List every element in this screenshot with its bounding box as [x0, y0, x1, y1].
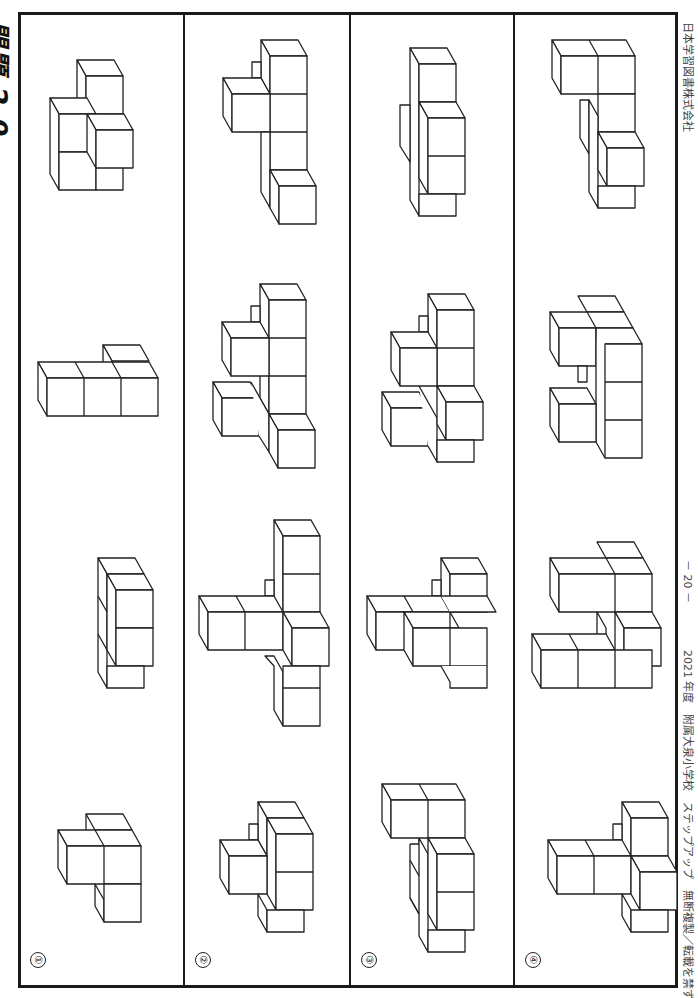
figure-row1-4[interactable] [58, 814, 148, 934]
row-label-1: ① [30, 952, 46, 968]
row-divider-3-4 [513, 12, 515, 988]
figure-row4-1[interactable] [552, 40, 652, 220]
figure-row3-4[interactable] [382, 784, 492, 964]
figure-row2-3[interactable] [199, 520, 339, 740]
figure-row2-1[interactable] [223, 40, 323, 230]
row-divider-2-3 [349, 12, 351, 988]
row-label-3: ③ [361, 952, 377, 968]
row-divider-1-2 [183, 12, 185, 988]
problem-title: 問題 2 0 [0, 20, 24, 160]
page-number: － 20 － [682, 560, 698, 600]
figure-row4-3[interactable] [532, 542, 662, 702]
figure-row4-4[interactable] [548, 802, 658, 942]
row-label-2: ② [195, 952, 211, 968]
row-label-4: ④ [525, 952, 541, 968]
footer-copyright: 2021 年度 附属大泉小学校 ステップアップ 無断複製／転載を禁ずる [682, 650, 698, 990]
problem-title-text: 問題 2 0 [0, 20, 18, 138]
figure-row3-1[interactable] [400, 48, 480, 218]
publisher-text: 日本学習図書株式会社 [682, 22, 698, 162]
figure-row3-2[interactable] [382, 294, 492, 464]
figure-row4-2[interactable] [550, 296, 660, 466]
figure-row1-3[interactable] [98, 558, 168, 698]
figure-row1-2[interactable] [38, 345, 168, 425]
figure-row3-3[interactable] [367, 558, 507, 698]
figure-row2-2[interactable] [213, 284, 323, 474]
figure-row2-4[interactable] [220, 802, 330, 942]
figure-row1-1[interactable] [50, 60, 160, 200]
